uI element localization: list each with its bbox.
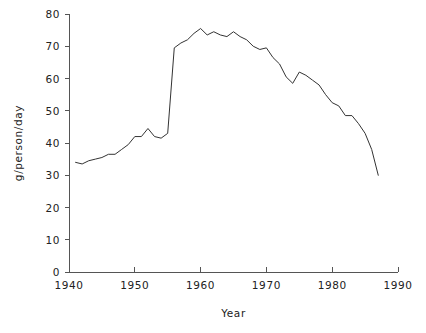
x-tick-label: 1990: [383, 279, 412, 291]
x-axis-ticks: 194019501960197019801990: [54, 267, 412, 291]
y-tick-label: 70: [45, 40, 60, 52]
chart-container: 01020304050607080 1940195019601970198019…: [0, 0, 426, 333]
x-tick-label: 1980: [318, 279, 347, 291]
y-tick-label: 40: [45, 137, 60, 149]
x-tick-label: 1950: [120, 279, 149, 291]
y-tick-label: 20: [45, 202, 60, 214]
y-tick-label: 50: [45, 105, 60, 117]
y-tick-label: 0: [53, 266, 60, 278]
y-tick-label: 10: [45, 234, 60, 246]
x-tick-label: 1940: [54, 279, 83, 291]
y-tick-label: 80: [45, 8, 60, 20]
y-tick-label: 60: [45, 73, 60, 85]
line-chart: 01020304050607080 1940195019601970198019…: [0, 0, 426, 333]
x-tick-label: 1970: [252, 279, 281, 291]
y-axis-title: g/person/day: [12, 105, 24, 181]
x-tick-label: 1960: [186, 279, 215, 291]
x-axis-title: Year: [220, 307, 246, 319]
data-series-line: [76, 29, 379, 176]
y-axis-ticks: 01020304050607080: [45, 8, 69, 278]
y-tick-label: 30: [45, 169, 60, 181]
